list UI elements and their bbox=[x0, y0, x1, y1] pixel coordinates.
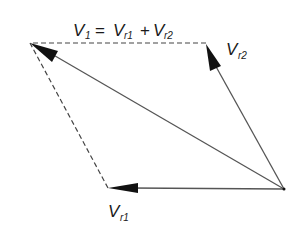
vr2-sub: r2 bbox=[238, 50, 247, 61]
vr1-sub: r1 bbox=[120, 212, 129, 223]
eq-term2-sub: r2 bbox=[164, 30, 173, 41]
eq-lhs-sub: 1 bbox=[85, 30, 91, 41]
eq-plus: + bbox=[140, 21, 150, 40]
vector-diagram: V 1 = V r1 + V r2 V r2 V r1 bbox=[0, 0, 298, 231]
vector-vr1 bbox=[108, 183, 284, 193]
arrowhead-v1 bbox=[30, 43, 58, 62]
label-vr1: V r1 bbox=[108, 202, 129, 223]
label-vr2: V r2 bbox=[226, 40, 247, 61]
eq-term1-sub: r1 bbox=[124, 30, 133, 41]
origin-point bbox=[283, 188, 286, 191]
vector-vr2 bbox=[206, 44, 284, 189]
vector-v1 bbox=[30, 43, 284, 189]
eq-equals: = bbox=[95, 21, 105, 40]
arrowhead-vr1 bbox=[108, 183, 138, 193]
equation-label: V 1 = V r1 + V r2 bbox=[73, 21, 173, 41]
arrowhead-vr2 bbox=[206, 44, 221, 71]
